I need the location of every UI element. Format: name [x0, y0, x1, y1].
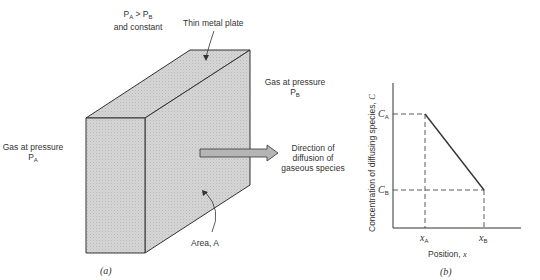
thin-metal-plate-label: Thin metal plate	[183, 18, 243, 28]
diffusion-direction-label: Direction of diffusion of gaseous specie…	[280, 143, 346, 173]
cb-tick-label: CB	[378, 185, 389, 198]
cb-subscript: B	[385, 190, 389, 196]
y-axis-label-var: C	[367, 94, 377, 100]
caption-a: (a)	[100, 265, 112, 276]
caption-b: (b)	[440, 266, 452, 277]
xa-subscript: A	[424, 238, 428, 244]
constant-text: and constant	[114, 22, 163, 32]
greater-than: >	[133, 9, 143, 19]
ca-subscript: A	[385, 114, 389, 120]
xb-subscript: B	[483, 238, 487, 244]
direction-line2: diffusion of	[293, 153, 334, 163]
xa-tick-label: xA	[420, 233, 428, 246]
x-axis-label: Position, x	[428, 249, 467, 259]
pb-subscript: B	[149, 14, 153, 20]
plate-front-face	[86, 118, 145, 253]
pressure-condition-label: PA > PB and constant	[103, 9, 173, 32]
gas-b-text: Gas at pressure	[265, 77, 325, 87]
direction-line1: Direction of	[292, 143, 335, 153]
y-axis-label-text: Concentration of diffusing species,	[367, 100, 377, 232]
ca-tick-label: CA	[378, 109, 389, 122]
concentration-profile-line	[425, 114, 484, 190]
y-axis-label: Concentration of diffusing species, C	[367, 94, 377, 232]
gas-a-text: Gas at pressure	[3, 142, 63, 152]
direction-line3: gaseous species	[281, 163, 344, 173]
gas-b-subscript: B	[296, 92, 300, 98]
gas-a-subscript: A	[34, 157, 38, 163]
gas-b-label: Gas at pressure PB	[260, 77, 330, 100]
x-axis-label-text: Position,	[428, 249, 463, 259]
concentration-chart	[393, 83, 521, 228]
cb-symbol: C	[378, 184, 385, 195]
x-axis-label-var: x	[463, 249, 467, 259]
area-label: Area, A	[191, 238, 219, 248]
gas-a-label: Gas at pressure PA	[0, 142, 66, 165]
ca-symbol: C	[378, 108, 385, 119]
diagram-canvas	[0, 0, 540, 280]
xb-tick-label: xB	[479, 233, 487, 246]
